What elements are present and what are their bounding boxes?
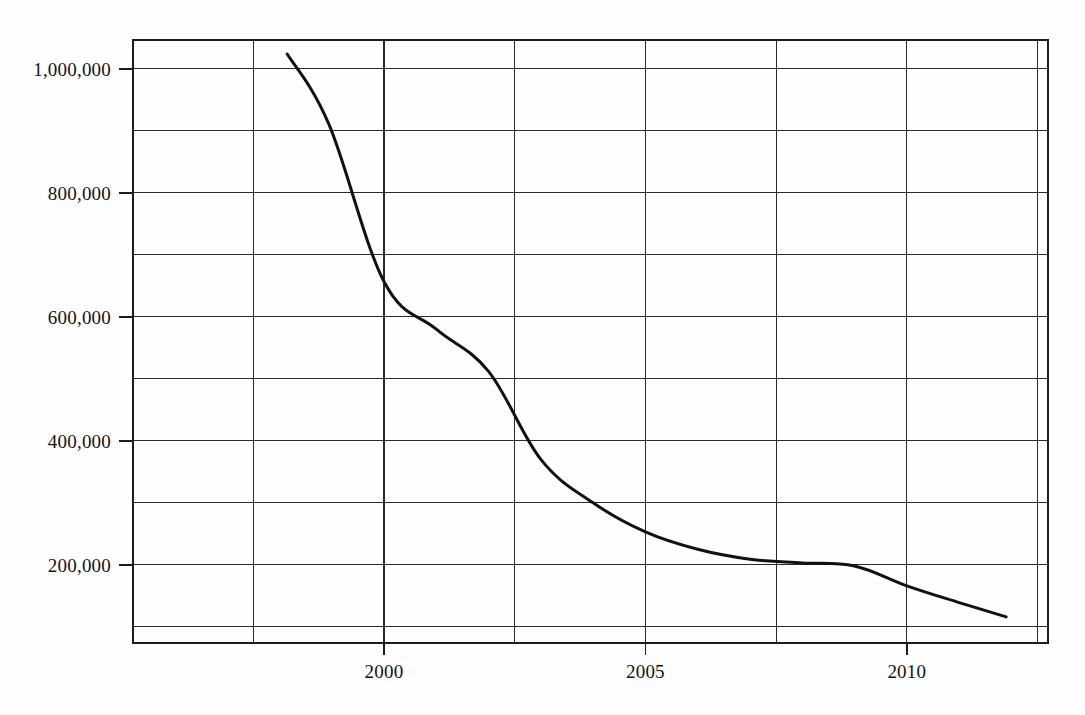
y-tick-label: 200,000: [48, 555, 111, 576]
y-tick-label: 1,000,000: [33, 59, 111, 80]
y-axis-tick-labels: 200,000400,000600,000800,0001,000,000: [33, 59, 111, 576]
x-axis-tick-labels: 200020052010: [365, 661, 927, 682]
horizontal-gridlines: [133, 69, 1048, 627]
y-tick-label: 400,000: [48, 431, 111, 452]
data-series-group: [287, 54, 1006, 617]
chart-container: 200,000400,000600,000800,0001,000,000 20…: [0, 0, 1085, 715]
line-chart: 200,000400,000600,000800,0001,000,000 20…: [0, 0, 1085, 715]
x-tick-label: 2005: [626, 661, 665, 682]
x-tick-label: 2000: [365, 661, 404, 682]
axis-tickmarks: [119, 69, 907, 655]
x-tick-label: 2010: [887, 661, 926, 682]
y-tick-label: 600,000: [48, 307, 111, 328]
y-tick-label: 800,000: [48, 183, 111, 204]
series-line-value: [287, 54, 1006, 617]
